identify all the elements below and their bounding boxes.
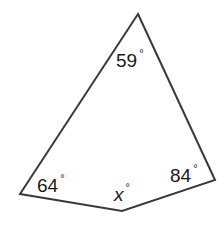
degree-symbol: ° (139, 47, 143, 59)
degree-symbol: ° (60, 172, 64, 184)
angle-value-bottom-variable: x (114, 184, 124, 205)
angle-value-right: 84 (170, 165, 191, 186)
angle-label-top: 59° (116, 51, 144, 70)
angle-value-left: 64 (37, 175, 58, 196)
angle-label-left: 64° (37, 176, 65, 195)
degree-symbol: ° (126, 181, 130, 193)
degree-symbol: ° (193, 162, 197, 174)
angle-value-top: 59 (116, 50, 137, 71)
angle-label-right: 84° (170, 166, 198, 185)
angle-label-bottom: x° (114, 185, 130, 204)
